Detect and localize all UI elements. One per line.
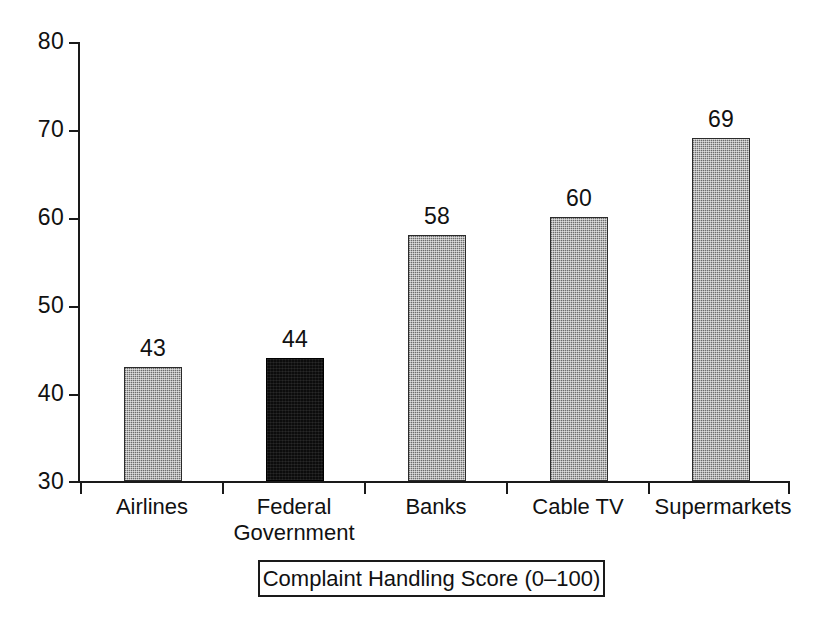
y-tick-label-80: 80 <box>18 30 64 53</box>
x-tick-mark-5 <box>788 483 790 494</box>
x-category-label-federal-government-line1: Federal <box>257 494 332 519</box>
bar-banks <box>408 235 466 481</box>
bar-supermarkets <box>692 138 750 481</box>
x-tick-mark-2 <box>364 483 366 494</box>
y-tick-label-40: 40 <box>18 382 64 405</box>
bar-value-banks: 58 <box>408 205 466 228</box>
y-tick-label-70: 70 <box>18 118 64 141</box>
x-category-label-supermarkets: Supermarkets <box>649 494 797 520</box>
bar-federal-government <box>266 358 324 481</box>
y-tick-mark-50 <box>69 306 78 308</box>
y-axis-line <box>78 42 80 483</box>
x-category-label-federal-government-line2: Government <box>223 520 365 546</box>
y-tick-label-60: 60 <box>18 206 64 229</box>
y-tick-mark-80 <box>69 42 78 44</box>
chart-title-box: Complaint Handling Score (0–100) <box>258 560 605 597</box>
bar-value-airlines: 43 <box>124 337 182 360</box>
x-tick-mark-3 <box>506 483 508 494</box>
bar-value-federal-government: 44 <box>266 328 324 351</box>
x-category-label-airlines: Airlines <box>81 494 223 520</box>
x-axis-line <box>78 481 790 483</box>
x-tick-mark-1 <box>222 483 224 494</box>
bar-airlines <box>124 367 182 481</box>
x-category-label-federal-government: Federal Government <box>223 494 365 546</box>
x-category-label-cable-tv-line1: Cable TV <box>532 494 623 519</box>
y-tick-mark-60 <box>69 218 78 220</box>
bar-value-cable-tv: 60 <box>550 187 608 210</box>
x-category-label-banks: Banks <box>365 494 507 520</box>
chart-title: Complaint Handling Score (0–100) <box>263 568 601 590</box>
x-category-label-cable-tv: Cable TV <box>507 494 649 520</box>
y-tick-mark-30 <box>69 481 78 483</box>
y-tick-mark-70 <box>69 130 78 132</box>
x-category-label-banks-line1: Banks <box>405 494 466 519</box>
y-tick-label-30: 30 <box>18 470 64 493</box>
bar-value-supermarkets: 69 <box>692 108 750 131</box>
y-tick-label-50: 50 <box>18 294 64 317</box>
x-category-label-supermarkets-line1: Supermarkets <box>655 494 792 519</box>
bar-cable-tv <box>550 217 608 481</box>
x-tick-mark-0 <box>80 483 82 494</box>
bar-chart: 80 70 60 50 40 30 43 44 58 60 69 Airline… <box>0 0 830 624</box>
y-tick-mark-40 <box>69 394 78 396</box>
x-tick-mark-4 <box>648 483 650 494</box>
x-category-label-airlines-line1: Airlines <box>116 494 188 519</box>
